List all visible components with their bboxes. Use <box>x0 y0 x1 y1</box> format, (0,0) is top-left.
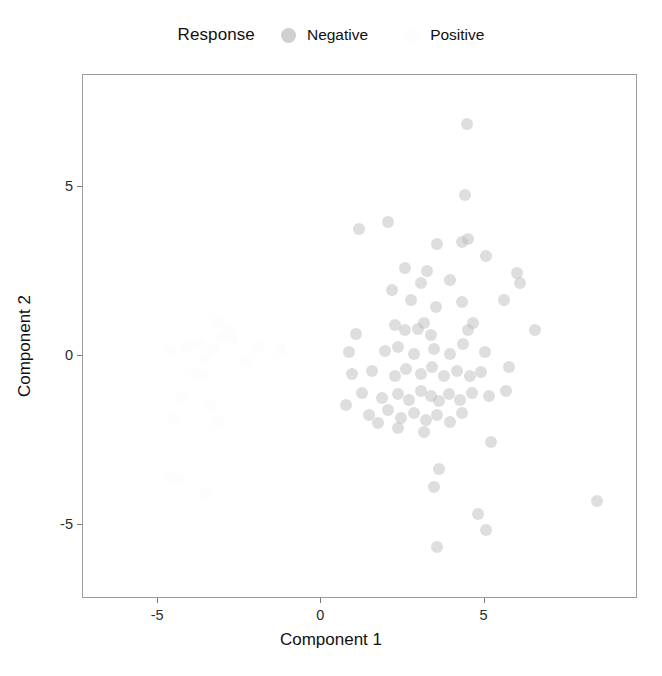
scatter-point <box>392 422 404 434</box>
scatter-point <box>428 481 440 493</box>
scatter-point <box>418 317 430 329</box>
y-tick-label: 5 <box>32 178 73 194</box>
scatter-point <box>167 412 179 424</box>
scatter-point <box>356 387 368 399</box>
scatter-point <box>199 353 211 365</box>
scatter-point <box>275 343 287 355</box>
scatter-point <box>216 331 228 343</box>
scatter-point <box>444 274 456 286</box>
scatter-point <box>418 426 430 438</box>
scatter-point <box>353 223 365 235</box>
x-tick-label: 5 <box>480 607 488 623</box>
scatter-point <box>529 324 541 336</box>
scatter-point <box>444 348 456 360</box>
y-tick-mark <box>77 355 82 356</box>
legend-label-negative: Negative <box>307 26 368 44</box>
scatter-point <box>480 250 492 262</box>
legend: Response Negative Positive <box>0 18 662 52</box>
scatter-point <box>472 508 484 520</box>
scatter-point <box>405 294 417 306</box>
scatter-point <box>400 363 412 375</box>
x-tick-mark <box>157 598 158 603</box>
scatter-point <box>389 370 401 382</box>
scatter-point <box>498 294 510 306</box>
x-axis-title: Component 1 <box>0 630 662 650</box>
scatter-point <box>456 296 468 308</box>
scatter-point <box>252 341 264 353</box>
scatter-point <box>346 368 358 380</box>
legend-entry-positive[interactable]: Positive <box>404 26 484 44</box>
legend-label-positive: Positive <box>430 26 484 44</box>
scatter-point <box>204 399 216 411</box>
scatter-point <box>173 473 185 485</box>
scatter-point <box>415 277 427 289</box>
x-tick-label: 0 <box>316 607 324 623</box>
scatter-point <box>408 407 420 419</box>
scatter-point <box>426 361 438 373</box>
scatter-point <box>392 388 404 400</box>
scatter-point <box>475 366 487 378</box>
scatter-point <box>430 301 442 313</box>
scatter-point <box>199 488 211 500</box>
scatter-point <box>392 341 404 353</box>
scatter-point <box>431 541 443 553</box>
scatter-point <box>193 339 205 351</box>
scatter-point <box>340 399 352 411</box>
scatter-point <box>198 370 210 382</box>
scatter-point <box>428 343 440 355</box>
y-tick-label: -5 <box>32 516 73 532</box>
scatter-point <box>343 346 355 358</box>
scatter-point <box>399 262 411 274</box>
scatter-point <box>438 370 450 382</box>
scatter-point <box>372 417 384 429</box>
scatter-point <box>386 284 398 296</box>
scatter-point <box>420 414 432 426</box>
scatter-point <box>467 317 479 329</box>
scatter-point <box>376 392 388 404</box>
scatter-point <box>366 365 378 377</box>
scatter-point <box>454 394 466 406</box>
scatter-point <box>485 436 497 448</box>
scatter-point <box>379 345 391 357</box>
scatter-point <box>444 416 456 428</box>
scatter-point <box>500 385 512 397</box>
scatter-point <box>479 346 491 358</box>
scatter-point <box>165 345 177 357</box>
scatter-point <box>443 388 455 400</box>
x-tick-label: -5 <box>151 607 164 623</box>
scatter-point <box>408 348 420 360</box>
scatter-point <box>480 524 492 536</box>
scatter-point <box>461 118 473 130</box>
y-tick-mark <box>77 524 82 525</box>
scatter-point <box>382 404 394 416</box>
scatter-point <box>464 370 476 382</box>
x-tick-mark <box>320 598 321 603</box>
legend-entry-negative[interactable]: Negative <box>281 26 368 44</box>
scatter-point <box>403 394 415 406</box>
scatter-point <box>425 329 437 341</box>
scatter-point <box>239 355 251 367</box>
filled-circle-icon <box>404 28 419 43</box>
scatter-point <box>421 265 433 277</box>
scatter-point <box>212 416 224 428</box>
scatter-point <box>350 328 362 340</box>
scatter-point <box>457 338 469 350</box>
y-axis-title: Component 2 <box>15 246 35 446</box>
y-tick-label: 0 <box>32 347 73 363</box>
scatter-point <box>433 463 445 475</box>
scatter-point <box>431 238 443 250</box>
x-tick-mark <box>484 598 485 603</box>
scatter-point <box>456 407 468 419</box>
scatter-point <box>399 324 411 336</box>
y-tick-mark <box>77 186 82 187</box>
scatter-point <box>514 277 526 289</box>
scatter-point <box>431 409 443 421</box>
scatter-point <box>181 341 193 353</box>
scatter-point <box>466 387 478 399</box>
scatter-point <box>415 368 427 380</box>
scatter-point <box>227 333 239 345</box>
scatter-point <box>591 495 603 507</box>
scatter-point <box>462 233 474 245</box>
scatter-point <box>503 361 515 373</box>
scatter-point <box>382 216 394 228</box>
